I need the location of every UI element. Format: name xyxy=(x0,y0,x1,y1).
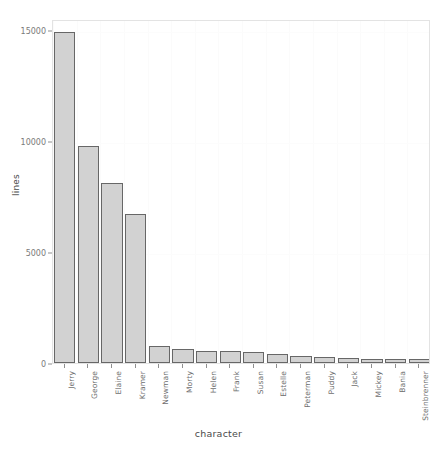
x-tick-mark xyxy=(418,364,419,368)
x-tick-mark xyxy=(182,364,183,368)
grid-line-vertical xyxy=(360,21,361,363)
bar xyxy=(243,352,264,363)
bar xyxy=(385,359,406,363)
x-tick-label: Peterman xyxy=(303,371,312,408)
bar xyxy=(149,346,170,363)
x-tick-label: Estelle xyxy=(279,371,288,397)
y-tick-label: 0 xyxy=(41,360,46,369)
grid-line-vertical xyxy=(407,21,408,363)
x-axis-ticks: JerryGeorgeElaineKramerNewmanMortyHelenF… xyxy=(52,364,430,453)
y-axis-ticks: 050001000015000 xyxy=(0,0,52,453)
grid-line-horizontal xyxy=(53,32,429,33)
bar xyxy=(125,214,146,363)
x-tick-label: Steinbrenner xyxy=(421,371,430,421)
grid-line-vertical xyxy=(218,21,219,363)
x-tick-label: Mickey xyxy=(374,371,383,397)
grid-line-vertical xyxy=(313,21,314,363)
x-tick-mark xyxy=(253,364,254,368)
bar xyxy=(101,183,122,363)
y-tick-label: 10000 xyxy=(21,138,46,147)
grid-line-vertical xyxy=(195,21,196,363)
x-tick-mark xyxy=(135,364,136,368)
x-tick-label: Susan xyxy=(256,371,265,394)
x-tick-mark xyxy=(64,364,65,368)
x-tick-mark xyxy=(158,364,159,368)
x-tick-label: Frank xyxy=(232,371,241,392)
x-tick-mark xyxy=(371,364,372,368)
x-tick-label: Elaine xyxy=(114,371,123,394)
y-tick-label: 15000 xyxy=(21,27,46,36)
x-tick-mark xyxy=(324,364,325,368)
x-tick-label: Jack xyxy=(350,371,359,387)
x-tick-label: Morty xyxy=(185,371,194,393)
grid-line-vertical xyxy=(384,21,385,363)
bar xyxy=(361,359,382,363)
x-tick-mark xyxy=(111,364,112,368)
x-tick-mark xyxy=(300,364,301,368)
bar xyxy=(54,32,75,363)
x-tick-label: Kramer xyxy=(138,371,147,399)
bar xyxy=(220,351,241,363)
grid-line-vertical xyxy=(242,21,243,363)
bar xyxy=(172,349,193,363)
x-tick-label: George xyxy=(90,371,99,399)
bar xyxy=(78,146,99,363)
x-tick-label: Jerry xyxy=(67,371,76,389)
x-tick-mark xyxy=(206,364,207,368)
plot-panel xyxy=(52,20,430,364)
grid-line-vertical xyxy=(289,21,290,363)
bar xyxy=(196,351,217,363)
x-tick-mark xyxy=(395,364,396,368)
bar xyxy=(409,359,430,363)
grid-line-horizontal xyxy=(53,143,429,144)
x-tick-mark xyxy=(229,364,230,368)
x-tick-label: Newman xyxy=(161,371,170,405)
y-tick-label: 5000 xyxy=(26,249,46,258)
x-tick-mark xyxy=(347,364,348,368)
x-axis-title: character xyxy=(0,428,437,439)
x-tick-mark xyxy=(276,364,277,368)
bar xyxy=(314,357,335,363)
grid-line-vertical xyxy=(171,21,172,363)
grid-line-vertical xyxy=(266,21,267,363)
grid-line-vertical xyxy=(337,21,338,363)
x-tick-label: Bania xyxy=(398,371,407,393)
x-tick-label: Helen xyxy=(209,371,218,393)
x-tick-label: Puddy xyxy=(327,371,336,395)
bar xyxy=(290,356,311,363)
bar xyxy=(267,354,288,363)
bar xyxy=(338,358,359,363)
x-tick-mark xyxy=(87,364,88,368)
grid-line-vertical xyxy=(148,21,149,363)
bar-chart: lines 050001000015000 JerryGeorgeElaineK… xyxy=(0,0,437,453)
